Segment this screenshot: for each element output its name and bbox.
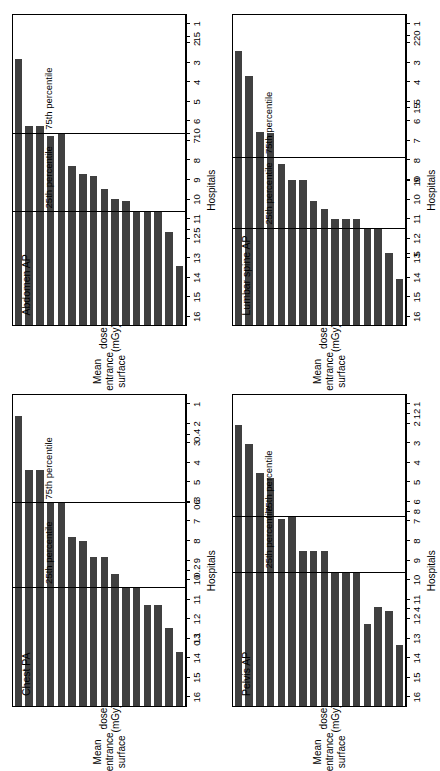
x-axis-tick-label: 5 (411, 99, 422, 104)
x-axis-tick-label: 14 (411, 272, 422, 283)
x-axis-tick (186, 677, 190, 678)
panel-title-2: Pelvis AP (240, 652, 252, 696)
x-axis-tick-label: 8 (191, 538, 202, 543)
x-axis-tick (406, 403, 410, 404)
x-axis-tick (406, 599, 410, 600)
x-axis-tick (406, 199, 410, 200)
x-axis-label-0: Hospitals (206, 381, 217, 762)
bar (176, 652, 184, 706)
x-axis-tick (186, 257, 190, 258)
reference-line-label: 25th percentile (43, 522, 54, 584)
x-axis-3: 12345678910111213141516 (406, 14, 420, 327)
x-axis-tick-label: 16 (191, 692, 202, 703)
x-axis-tick (186, 657, 190, 658)
bar (321, 551, 329, 706)
bar (122, 201, 130, 326)
y-axis-label-text: Mean entrance surface (92, 732, 128, 771)
reference-line-label: 25th percentile (263, 162, 274, 224)
panel-abdomen-ap: Mean entrance surfacedose (mGy) 51015 25… (0, 0, 220, 381)
x-axis-tick-label: 6 (191, 499, 202, 504)
x-axis-tick-label: 1 (411, 402, 422, 407)
x-axis-tick (186, 238, 190, 239)
x-axis-tick-label: 7 (411, 519, 422, 524)
x-axis-tick-label: 10 (191, 194, 202, 205)
bar (176, 266, 184, 325)
x-axis-tick (186, 140, 190, 141)
bar (374, 607, 382, 706)
x-axis-tick-label: 4 (191, 460, 202, 465)
x-axis-tick-label: 15 (191, 672, 202, 683)
x-axis-tick (406, 501, 410, 502)
x-axis-tick (406, 423, 410, 424)
bar (364, 229, 372, 326)
x-axis-tick (406, 540, 410, 541)
bar (111, 199, 119, 326)
x-axis-tick-label: 15 (191, 292, 202, 303)
bar (321, 209, 329, 326)
x-axis-tick-label: 2 (191, 41, 202, 46)
x-axis-tick (186, 501, 190, 502)
x-axis-tick (406, 101, 410, 102)
x-axis-tick-label: 4 (191, 80, 202, 85)
plot-box-2: 25th percentile75th percentile Pelvis AP (232, 395, 406, 708)
x-axis-1: 12345678910111213141516 (186, 14, 200, 327)
x-axis-tick (406, 618, 410, 619)
x-axis-tick (406, 462, 410, 463)
bar (133, 212, 141, 325)
x-axis-tick-label: 2 (411, 41, 422, 46)
x-axis-tick (406, 257, 410, 258)
bar (144, 605, 152, 706)
x-axis-tick (186, 101, 190, 102)
x-axis-tick (406, 560, 410, 561)
x-axis-tick (186, 62, 190, 63)
x-axis-tick-label: 9 (191, 177, 202, 182)
y-axis-label-units: dose (mGy) (98, 705, 122, 733)
x-axis-tick (186, 159, 190, 160)
x-axis-tick (406, 277, 410, 278)
bar (396, 279, 404, 325)
x-axis-tick-label: 2 (411, 421, 422, 426)
bar (374, 229, 382, 326)
y-axis-label: Mean entrance surfacedose (mGy) (220, 721, 440, 755)
x-axis-tick (406, 442, 410, 443)
x-axis-tick (406, 120, 410, 121)
x-axis-tick-label: 11 (411, 595, 422, 605)
panel-title-3: Lumbar spine AP (240, 236, 252, 316)
bar (68, 537, 76, 706)
x-axis-tick (406, 316, 410, 317)
x-axis-tick-label: 5 (191, 480, 202, 485)
x-axis-tick (406, 677, 410, 678)
y-axis-label: Mean entrance surfacedose (mGy) (0, 341, 220, 375)
x-axis-2: 12345678910111213141516 (406, 395, 420, 708)
panel-title-0: Chest PA (20, 652, 32, 696)
x-axis-tick-label: 3 (191, 441, 202, 446)
bar (310, 551, 318, 706)
x-axis-tick-label: 4 (411, 460, 422, 465)
bar (79, 541, 87, 706)
x-axis-tick-label: 9 (411, 177, 422, 182)
plot-box-3: 25th percentile75th percentile Lumbar sp… (232, 14, 406, 327)
x-axis-tick-label: 11 (191, 595, 202, 605)
bar (364, 624, 372, 706)
bar (278, 164, 286, 326)
x-axis-tick-label: 9 (411, 558, 422, 563)
x-axis-tick (406, 481, 410, 482)
x-axis-tick (406, 238, 410, 239)
x-axis-tick-label: 3 (411, 60, 422, 65)
bar (299, 180, 307, 326)
bar (122, 588, 130, 706)
x-axis-tick (186, 579, 190, 580)
x-axis-tick (406, 159, 410, 160)
bar (90, 176, 98, 326)
x-axis-tick (186, 462, 190, 463)
x-axis-tick (186, 638, 190, 639)
x-axis-tick (406, 42, 410, 43)
x-axis-tick-label: 7 (411, 138, 422, 143)
x-axis-tick (186, 403, 190, 404)
panel-lumbar-spine-ap: Mean entrance surfacedose (mGy) 5101520 … (220, 0, 440, 381)
x-axis-tick (186, 520, 190, 521)
x-axis-tick-label: 10 (411, 194, 422, 205)
x-axis-tick (406, 218, 410, 219)
reference-line (13, 211, 185, 212)
x-axis-tick-label: 5 (191, 99, 202, 104)
